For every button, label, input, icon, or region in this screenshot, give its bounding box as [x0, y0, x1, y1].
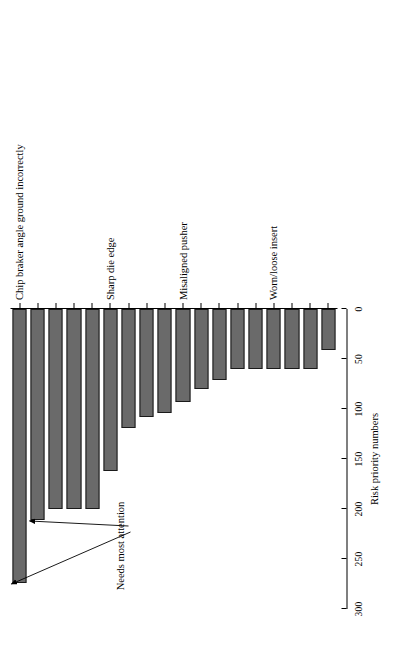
bar — [103, 309, 117, 471]
value-axis-tick — [341, 408, 346, 409]
value-axis-tick-label: 150 — [353, 452, 363, 467]
category-axis-tick — [164, 303, 165, 308]
category-axis-tick — [237, 303, 238, 308]
bar — [66, 309, 80, 509]
category-axis-tick — [109, 303, 110, 308]
category-axis-tick — [200, 303, 201, 308]
bar — [321, 309, 335, 350]
bar — [303, 309, 317, 369]
value-axis-tick — [341, 508, 346, 509]
category-axis-label: Chip braker angle ground incorrectly — [14, 144, 25, 300]
bar — [139, 309, 153, 417]
value-axis-tick-label: 0 — [353, 307, 363, 312]
category-axis-tick — [19, 303, 20, 308]
category-axis-tick — [327, 303, 328, 308]
category-axis-tick — [291, 303, 292, 308]
bar — [230, 309, 244, 369]
category-axis-tick — [73, 303, 74, 308]
category-axis-tick — [255, 303, 256, 308]
value-axis-tick-label: 200 — [353, 502, 363, 517]
value-axis-tick — [341, 458, 346, 459]
bar — [157, 309, 171, 413]
bar — [48, 309, 62, 509]
bar — [30, 309, 44, 520]
value-axis-tick — [341, 358, 346, 359]
value-axis-title: Risk priority numbers — [368, 413, 379, 505]
figure-stage: 050100150200250300 Chip braker angle gro… — [0, 0, 399, 666]
value-axis-tick-label: 50 — [353, 354, 363, 364]
value-axis-line — [346, 309, 347, 609]
category-axis-tick — [37, 303, 38, 308]
category-axis-label: Misaligned pusher — [177, 222, 188, 300]
category-axis-tick — [273, 303, 274, 308]
bar — [12, 309, 26, 583]
value-axis-tick — [341, 608, 346, 609]
category-axis-label: Worn/loose insert — [268, 226, 279, 300]
value-axis-tick — [341, 558, 346, 559]
bar — [284, 309, 298, 369]
value-axis-tick-label: 250 — [353, 552, 363, 567]
bar — [175, 309, 189, 402]
bar — [85, 309, 99, 509]
category-axis-tick — [55, 303, 56, 308]
category-axis-tick — [309, 303, 310, 308]
category-axis-tick — [146, 303, 147, 308]
pareto-bar-chart: 050100150200250300 Chip braker angle gro… — [0, 0, 399, 666]
annotation-needs-most-attention: Needs most attention — [115, 502, 126, 591]
category-axis-tick — [128, 303, 129, 308]
bar — [194, 309, 208, 389]
value-axis-tick-label: 100 — [353, 402, 363, 417]
value-axis-tick-label: 300 — [353, 602, 363, 617]
category-axis-tick — [218, 303, 219, 308]
bar — [248, 309, 262, 369]
category-axis-tick — [182, 303, 183, 308]
category-axis-tick — [91, 303, 92, 308]
bar — [266, 309, 280, 369]
bar — [121, 309, 135, 428]
category-axis-label: Sharp die edge — [104, 238, 115, 300]
plot-area: 050100150200250300 Chip braker angle gro… — [0, 0, 399, 666]
value-axis-tick — [341, 308, 346, 309]
bar — [212, 309, 226, 380]
